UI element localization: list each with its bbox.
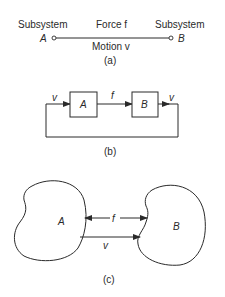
caption-a: (a) — [104, 55, 116, 66]
panel-c: A B f v (c) — [14, 181, 205, 285]
body-a — [14, 181, 86, 261]
subsystem-b-label: Subsystem — [155, 19, 204, 30]
subsystem-a-label: Subsystem — [18, 19, 67, 30]
panel-a: Subsystem Subsystem Force f A B Motion v… — [18, 19, 204, 66]
caption-c: (c) — [103, 274, 115, 285]
panel-b: v A f B v (b) — [46, 90, 178, 157]
feedback-input-arrow — [46, 104, 70, 137]
node-a-label: A — [39, 33, 47, 44]
diagram-canvas: Subsystem Subsystem Force f A B Motion v… — [0, 0, 225, 297]
body-b — [138, 185, 206, 265]
caption-b: (b) — [104, 146, 116, 157]
input-v-label: v — [52, 92, 58, 103]
output-v-label: v — [169, 92, 175, 103]
force-label: Force f — [96, 19, 127, 30]
body-a-label: A — [57, 216, 65, 227]
block-a-label: A — [79, 99, 87, 110]
motion-v-label: v — [103, 240, 109, 251]
node-a-terminal — [52, 36, 56, 40]
body-b-label: B — [173, 221, 180, 232]
node-b-label: B — [178, 33, 185, 44]
motion-label: Motion v — [92, 41, 130, 52]
block-b-label: B — [141, 99, 148, 110]
node-b-terminal — [169, 36, 173, 40]
middle-f-label: f — [111, 90, 115, 101]
